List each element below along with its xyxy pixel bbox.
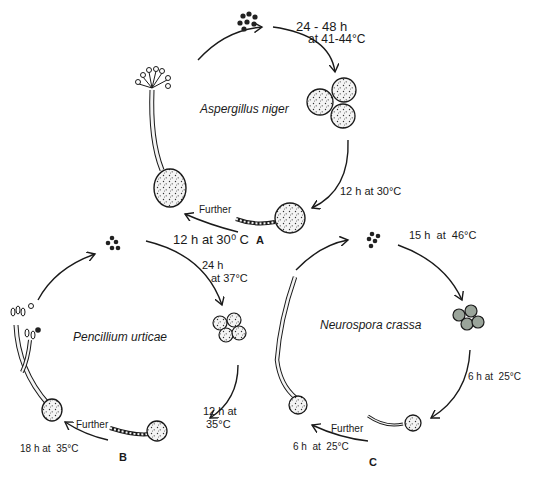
cycle-c bbox=[277, 232, 484, 441]
further-label-b: Further bbox=[76, 419, 108, 431]
arrow-c-3 bbox=[431, 350, 470, 418]
diagram-canvas: 24 - 48 h at 41-44°C Aspergillus niger 1… bbox=[0, 0, 536, 480]
step-label-b-2-line1: 12 h at bbox=[203, 405, 237, 417]
arrow-c-2 bbox=[398, 245, 462, 300]
species-label-b: Pencillium urticae bbox=[73, 331, 167, 343]
step-label-b-1-line1: 24 h bbox=[202, 259, 223, 271]
step-label-b-2-line2: 35°C bbox=[206, 418, 231, 430]
species-label-a: Aspergillus niger bbox=[200, 103, 289, 115]
arrow-c-1 bbox=[296, 240, 348, 270]
swollen-spores-b bbox=[213, 313, 246, 342]
panel-label-b: B bbox=[119, 451, 127, 463]
germ-tube-c bbox=[368, 415, 421, 431]
step-label-c-2: 6 h at 25°C bbox=[468, 371, 521, 383]
germ-tube-b bbox=[110, 421, 167, 441]
swollen-spores-a bbox=[307, 78, 356, 128]
arrow-b-1 bbox=[38, 254, 95, 300]
germ-tube-a bbox=[236, 203, 305, 233]
step-label-c-3: 6 h at 25°C bbox=[293, 441, 349, 453]
step-label-b-1-line2: at 37°C bbox=[211, 272, 248, 284]
conidiophore-a bbox=[136, 67, 187, 208]
step-label-a-1-line2: at 41-44°C bbox=[308, 33, 366, 45]
arrow-a-3 bbox=[312, 140, 348, 208]
arrow-a-1 bbox=[198, 27, 262, 60]
species-label-c: Neurospora crassa bbox=[320, 319, 421, 331]
step-label-b-3: 18 h at 35°C bbox=[20, 443, 78, 455]
arrow-a-4 bbox=[185, 214, 238, 232]
step-label-a-3: 12 h at 30⁰ C bbox=[173, 234, 249, 246]
further-label-a: Further bbox=[199, 204, 231, 216]
hypha-c bbox=[277, 277, 307, 414]
panel-label-a: A bbox=[256, 234, 264, 246]
conidiophore-b bbox=[11, 304, 62, 422]
step-label-a-2: 12 h at 30°C bbox=[340, 185, 401, 197]
dormant-spores-c bbox=[367, 232, 381, 249]
panel-label-c: C bbox=[369, 456, 377, 468]
further-label-c: Further bbox=[331, 423, 363, 435]
swollen-spores-c bbox=[453, 305, 484, 330]
step-label-c-1: 15 h at 46°C bbox=[409, 229, 476, 241]
dormant-spores-b bbox=[106, 236, 121, 251]
